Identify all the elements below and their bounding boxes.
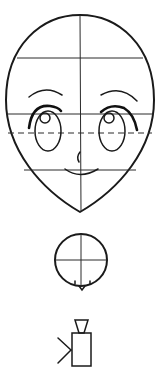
right-eyebrow: [101, 91, 137, 101]
head-diagram: [6, 15, 154, 212]
left-eyelid: [29, 106, 61, 128]
side-circle-diagram: [55, 234, 107, 290]
camera-diagram: [58, 320, 91, 366]
right-eyelid: [101, 106, 137, 130]
figure-svg: [0, 0, 160, 373]
camera-view-line-upper: [58, 338, 71, 350]
camera-viewfinder-icon: [75, 320, 88, 333]
face-drawing-guide: [0, 0, 160, 373]
left-eyebrow: [29, 90, 62, 97]
camera-body-icon: [72, 333, 91, 366]
right-eye: [99, 111, 125, 151]
nose: [78, 152, 80, 162]
left-eye: [35, 111, 61, 151]
camera-view-line-lower: [58, 350, 71, 363]
